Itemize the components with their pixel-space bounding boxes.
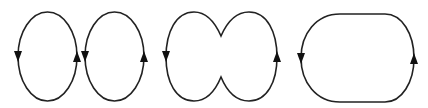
loop-2: [81, 12, 148, 101]
loop-3: [162, 12, 281, 101]
loop-4-path: [301, 14, 414, 102]
diagram-canvas: [0, 0, 428, 108]
arrow-down-icon: [162, 51, 170, 62]
arrow-down-icon: [81, 51, 89, 62]
arrow-up-icon: [73, 51, 81, 62]
arrow-down-icon: [297, 53, 305, 64]
arrow-up-icon: [410, 53, 418, 64]
loop-3-path: [166, 12, 277, 101]
arrow-down-icon: [14, 51, 22, 62]
loop-2-path: [85, 12, 144, 101]
loop-1: [14, 12, 81, 101]
loop-4: [297, 14, 418, 102]
loop-1-path: [18, 12, 77, 101]
arrow-up-icon: [273, 51, 281, 62]
arrow-up-icon: [140, 51, 148, 62]
